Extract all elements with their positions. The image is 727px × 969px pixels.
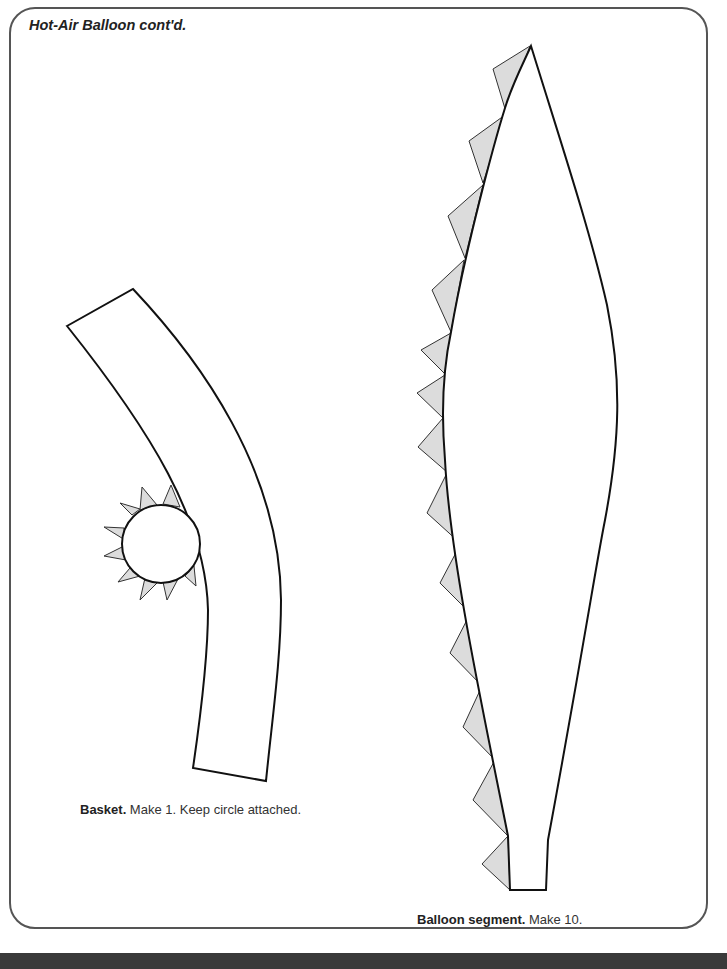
balloon-caption-text: Make 10.: [525, 912, 582, 927]
basket-circle: [122, 505, 200, 583]
balloon-caption-bold: Balloon segment.: [417, 912, 525, 927]
basket-caption-bold: Basket.: [80, 802, 126, 817]
bottom-bar: [0, 953, 727, 969]
basket-caption: Basket. Make 1. Keep circle attached.: [80, 802, 301, 817]
basket-caption-text: Make 1. Keep circle attached.: [126, 802, 301, 817]
balloon-segment: [443, 46, 617, 890]
templates-drawing: [0, 0, 727, 969]
balloon-caption: Balloon segment. Make 10.: [417, 912, 582, 927]
